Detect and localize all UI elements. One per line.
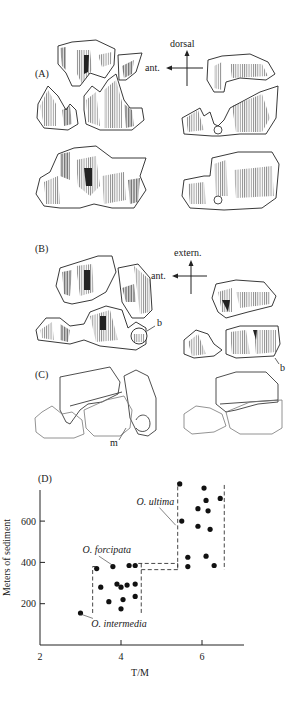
data-point xyxy=(201,485,206,490)
x-tick-label: 4 xyxy=(119,651,124,662)
annotation-leader-line xyxy=(99,556,113,565)
species-annotation: O. intermedia xyxy=(91,618,147,629)
data-point xyxy=(120,597,125,602)
data-point xyxy=(218,496,223,501)
data-point xyxy=(177,481,182,486)
x-tick-label: 6 xyxy=(200,651,205,662)
y-tick-label: 600 xyxy=(21,516,36,527)
range-transition-top xyxy=(138,563,177,569)
x-axis-label: T/M xyxy=(131,667,149,678)
data-point xyxy=(118,585,123,590)
y-tick-label: 400 xyxy=(21,557,36,568)
data-point xyxy=(106,599,111,604)
data-point xyxy=(203,554,208,559)
chart-annotations: O. ultimaO. forcipataO. intermedia xyxy=(81,496,176,630)
y-tick-label: 200 xyxy=(21,598,36,609)
scatter-chart: 246200400600T/MMeters of sediment O. ult… xyxy=(0,0,300,707)
data-point xyxy=(195,524,200,529)
data-point xyxy=(133,594,138,599)
annotation-leader-line xyxy=(159,508,175,526)
data-point xyxy=(205,508,210,513)
data-point xyxy=(185,555,190,560)
data-point xyxy=(203,498,208,503)
range-forcipata-left xyxy=(93,567,96,613)
data-point xyxy=(185,564,190,569)
data-point xyxy=(195,506,200,511)
data-point xyxy=(124,583,129,588)
chart-axes: 246200400600T/MMeters of sediment xyxy=(1,490,244,678)
data-point xyxy=(208,527,213,532)
y-axis-label: Meters of sediment xyxy=(1,519,12,596)
species-annotation: O. ultima xyxy=(137,496,175,507)
data-point xyxy=(110,564,115,569)
annotation-leader-line xyxy=(81,614,93,618)
data-point xyxy=(212,563,217,568)
data-point xyxy=(127,563,132,568)
data-point xyxy=(118,606,123,611)
range-ultima-left xyxy=(178,483,181,570)
data-point xyxy=(179,519,184,524)
data-point xyxy=(133,563,138,568)
data-point xyxy=(133,581,138,586)
x-tick-label: 2 xyxy=(38,651,43,662)
data-point xyxy=(98,585,103,590)
species-annotation: O. forcipata xyxy=(83,544,132,555)
data-point xyxy=(94,566,99,571)
